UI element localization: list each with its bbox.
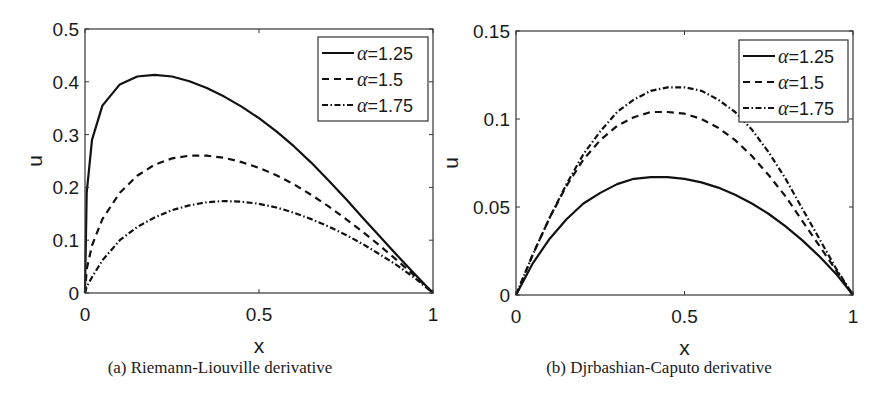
legend-entry-label: α=1.25	[778, 45, 834, 67]
y-tick-label: 0.1	[53, 230, 79, 251]
y-axis-label: u	[440, 157, 462, 169]
x-tick-label: 0	[511, 306, 522, 327]
series-line-dashdot	[85, 201, 433, 293]
y-tick-label: 0.4	[53, 72, 80, 93]
x-axis-label: x	[679, 336, 690, 355]
y-tick-label: 0.1	[484, 109, 510, 130]
x-tick-label: 0.5	[671, 306, 697, 327]
x-tick-label: 0	[80, 304, 91, 325]
figure-riemann-liouville: 00.5100.10.20.30.40.5xuα=1.25α=1.5α=1.75…	[0, 0, 440, 409]
figure-djrbashian-caputo: 00.5100.050.10.15xuα=1.25α=1.5α=1.75 (b)…	[440, 0, 878, 409]
legend: α=1.25α=1.5α=1.75	[318, 37, 428, 121]
y-tick-label: 0.5	[53, 19, 79, 40]
y-tick-label: 0	[68, 283, 79, 304]
chart-b: 00.5100.050.10.15xuα=1.25α=1.5α=1.75	[440, 0, 878, 355]
chart-a: 00.5100.10.20.30.40.5xuα=1.25α=1.5α=1.75	[0, 0, 440, 355]
x-tick-label: 0.5	[246, 304, 272, 325]
legend-entry-label: α=1.75	[357, 94, 413, 116]
caption-b: (b) Djrbashian-Caputo derivative	[440, 358, 878, 378]
caption-a-text: (a) Riemann-Liouville derivative	[108, 358, 333, 378]
y-tick-label: 0.05	[473, 197, 510, 218]
y-tick-label: 0.2	[53, 177, 79, 198]
y-axis-label: u	[23, 155, 46, 167]
legend-entry-label: α=1.5	[778, 71, 824, 93]
legend-entry-label: α=1.5	[357, 68, 403, 90]
legend-entry-label: α=1.25	[357, 42, 413, 64]
legend: α=1.25α=1.5α=1.75	[739, 40, 848, 122]
series-line-dashed	[85, 156, 433, 293]
x-tick-label: 1	[428, 304, 439, 325]
caption-b-text: (b) Djrbashian-Caputo derivative	[546, 358, 772, 378]
series-line-solid	[516, 177, 853, 295]
legend-entry-label: α=1.75	[778, 97, 834, 119]
y-tick-label: 0	[499, 285, 510, 306]
x-tick-label: 1	[848, 306, 859, 327]
x-axis-label: x	[254, 334, 265, 355]
caption-a: (a) Riemann-Liouville derivative	[0, 358, 440, 378]
y-tick-label: 0.15	[473, 21, 510, 42]
series-line-dashed	[516, 112, 853, 295]
y-tick-label: 0.3	[53, 125, 79, 146]
